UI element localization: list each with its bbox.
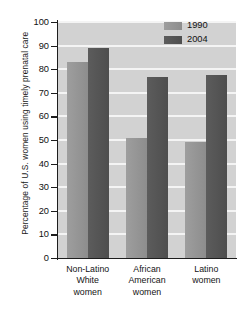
y-axis-tick [51,93,57,94]
category-label-line: women [177,275,236,286]
y-axis-tick-label: 30 [5,182,49,192]
legend-item-2004: 2004 [164,34,230,46]
legend-label-2004: 2004 [187,35,208,44]
bar-1990-3 [185,142,206,258]
category-label-line: Non-Latino [58,264,117,275]
legend-item-1990: 1990 [164,20,230,32]
category-label-1: Non-LatinoWhitewomen [58,264,117,298]
legend-swatch-2004 [164,36,182,44]
chart-legend: 19902004 [164,20,230,48]
bar-2004-2 [147,77,168,258]
y-axis-tick-label: 70 [5,88,49,98]
y-axis-tick [51,140,57,141]
y-axis-line [57,20,58,260]
category-label-line: American [117,275,176,286]
category-label-3: Latinowomen [177,264,236,287]
plot-area [58,22,236,258]
category-label-line: White [58,275,117,286]
bar-2004-1 [88,48,109,258]
y-axis-tick-label: 90 [5,41,49,51]
y-axis-tick [51,69,57,70]
y-axis-tick [51,116,57,117]
legend-label-1990: 1990 [187,21,208,30]
y-axis-tick [51,211,57,212]
bar-chart-figure: Percentage of U.S. women using timely pr… [0,0,247,317]
bar-2004-3 [206,75,227,258]
category-label-2: AfricanAmericanwomen [117,264,176,298]
y-axis-tick-label: 80 [5,64,49,74]
y-axis-tick-labels: 0102030405060708090100 [0,0,49,317]
y-axis-tick-label: 60 [5,111,49,121]
category-label-line: Latino [177,264,236,275]
y-axis-tick [51,164,57,165]
category-label-line: African [117,264,176,275]
y-axis-tick-label: 50 [5,135,49,145]
y-axis-tick [51,187,57,188]
y-axis-tick-label: 0 [5,253,49,263]
x-axis-category-labels: Non-LatinoWhitewomenAfricanAmericanwomen… [58,264,236,314]
y-axis-tick-label: 20 [5,206,49,216]
legend-swatch-1990 [164,22,182,30]
y-axis-tick [51,258,57,259]
y-axis-tick-label: 40 [5,159,49,169]
y-axis-tick-label: 10 [5,229,49,239]
y-axis-tick [51,46,57,47]
y-axis-tick [51,234,57,235]
x-axis-line [57,258,237,259]
category-label-line: women [58,287,117,298]
bar-1990-1 [67,62,88,258]
bar-1990-2 [126,138,147,258]
category-label-line: women [117,287,176,298]
y-axis-tick-label: 100 [5,17,49,27]
y-axis-tick [51,22,57,23]
